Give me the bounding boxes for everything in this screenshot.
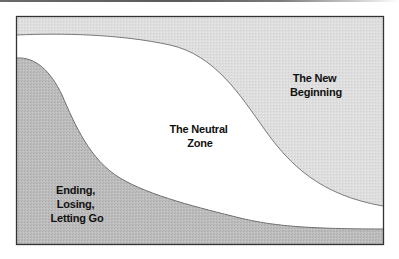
- label-ending-line-1: Ending,: [56, 184, 95, 196]
- transition-diagram: The New Beginning The Neutral Zone Endin…: [0, 0, 399, 259]
- label-ending-line-3: Letting Go: [51, 212, 104, 224]
- label-ending: Ending, Losing, Letting Go: [51, 184, 104, 224]
- label-neutral-zone-line-2: Zone: [187, 137, 213, 149]
- label-neutral-zone-line-1: The Neutral: [169, 123, 227, 135]
- label-new-beginning-line-1: The New: [293, 72, 337, 84]
- label-ending-line-2: Losing,: [57, 198, 95, 210]
- label-new-beginning-line-2: Beginning: [290, 86, 342, 98]
